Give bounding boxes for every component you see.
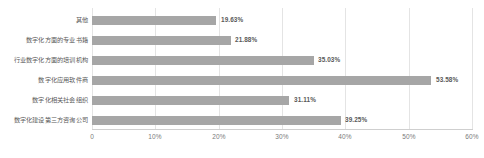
bar-第三方咨询公司[interactable] bbox=[92, 116, 341, 125]
x-tick-label: 40% bbox=[338, 133, 351, 140]
x-tick-label: 20% bbox=[212, 133, 225, 140]
value-label: 31.11% bbox=[294, 97, 316, 103]
value-label: 35.03% bbox=[318, 57, 340, 63]
x-tick-label: 30% bbox=[275, 133, 288, 140]
gridline bbox=[155, 8, 156, 129]
value-label: 53.58% bbox=[436, 77, 458, 83]
gridline bbox=[472, 8, 473, 129]
category-label: 数字化方面的专业书籍 bbox=[26, 37, 88, 43]
bar-社会组织[interactable] bbox=[92, 96, 289, 105]
bar-chart: 其他 数字化方面的专业书籍 行业数字化方面的培训机构 数字化应用软件商 数字化相… bbox=[0, 0, 484, 158]
bar-培训机构[interactable] bbox=[92, 56, 314, 65]
gridline bbox=[92, 8, 93, 129]
x-tick-label: 10% bbox=[148, 133, 161, 140]
bar-其他[interactable] bbox=[92, 16, 216, 25]
plot-area bbox=[92, 8, 472, 129]
y-axis-category-labels: 其他 数字化方面的专业书籍 行业数字化方面的培训机构 数字化应用软件商 数字化相… bbox=[0, 0, 88, 158]
bar-专业书籍[interactable] bbox=[92, 36, 231, 45]
x-tick-label: 0 bbox=[90, 133, 94, 140]
category-label: 数字化建设第三方咨询公司 bbox=[14, 117, 88, 123]
category-label: 行业数字化方面的培训机构 bbox=[14, 57, 88, 63]
x-tick-label: 60% bbox=[465, 133, 478, 140]
gridline bbox=[409, 8, 410, 129]
gridline bbox=[282, 8, 283, 129]
value-label: 21.88% bbox=[235, 37, 257, 43]
value-label: 19.63% bbox=[221, 17, 243, 23]
category-label: 数字化相关社会组织 bbox=[32, 97, 88, 103]
value-label: 39.25% bbox=[345, 117, 367, 123]
category-label: 数字化应用软件商 bbox=[38, 77, 88, 83]
category-label: 其他 bbox=[76, 17, 88, 23]
bar-应用软件商[interactable] bbox=[92, 76, 431, 85]
gridline bbox=[345, 8, 346, 129]
gridline bbox=[219, 8, 220, 129]
x-axis-line bbox=[92, 129, 473, 130]
x-tick-label: 50% bbox=[402, 133, 415, 140]
